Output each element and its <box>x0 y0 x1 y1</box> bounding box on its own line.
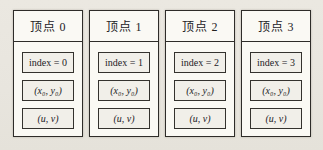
vertex-card-2-body: index = 2 (x₀, y₀) (u, v) <box>166 42 234 136</box>
vertex-card-0-title: 顶点 0 <box>14 11 82 42</box>
vertex-card-3: 顶点 3 index = 3 (x₀, y₀) (u, v) <box>241 10 311 137</box>
vertex-card-0-body: index = 0 (x₀, y₀) (u, v) <box>14 42 82 136</box>
vertex-card-3-uv-field: (u, v) <box>250 108 302 129</box>
vertex-card-1-uv-field: (u, v) <box>98 108 150 129</box>
vertex-card-3-body: index = 3 (x₀, y₀) (u, v) <box>242 42 310 136</box>
vertex-card-0: 顶点 0 index = 0 (x₀, y₀) (u, v) <box>13 10 83 137</box>
vertex-card-3-title: 顶点 3 <box>242 11 310 42</box>
vertex-card-0-index-field: index = 0 <box>22 52 74 73</box>
vertex-card-3-index-field: index = 3 <box>250 52 302 73</box>
vertex-card-2-position-field: (x₀, y₀) <box>174 80 226 101</box>
vertex-card-1-body: index = 1 (x₀, y₀) (u, v) <box>90 42 158 136</box>
diagram-canvas: 顶点 0 index = 0 (x₀, y₀) (u, v) 顶点 1 inde… <box>0 0 323 150</box>
vertex-card-1: 顶点 1 index = 1 (x₀, y₀) (u, v) <box>89 10 159 137</box>
vertex-card-2: 顶点 2 index = 2 (x₀, y₀) (u, v) <box>165 10 235 137</box>
vertex-card-1-position-field: (x₀, y₀) <box>98 80 150 101</box>
vertex-cards-row: 顶点 0 index = 0 (x₀, y₀) (u, v) 顶点 1 inde… <box>13 10 311 137</box>
vertex-card-1-title: 顶点 1 <box>90 11 158 42</box>
vertex-card-0-position-field: (x₀, y₀) <box>22 80 74 101</box>
vertex-card-3-position-field: (x₀, y₀) <box>250 80 302 101</box>
vertex-card-1-index-field: index = 1 <box>98 52 150 73</box>
vertex-card-2-uv-field: (u, v) <box>174 108 226 129</box>
vertex-card-2-title: 顶点 2 <box>166 11 234 42</box>
vertex-card-2-index-field: index = 2 <box>174 52 226 73</box>
vertex-card-0-uv-field: (u, v) <box>22 108 74 129</box>
